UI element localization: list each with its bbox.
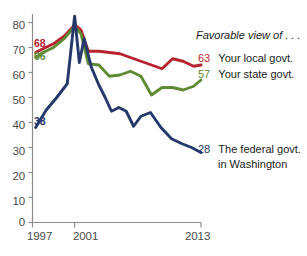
start-label-federal-govt: 38 xyxy=(34,115,46,127)
legend-value-state-govt: 57 xyxy=(198,68,210,80)
legend-entry-state-govt: 57 Your state govt. xyxy=(198,68,294,80)
x-tick-label-1997: 1997 xyxy=(27,230,52,242)
line-chart: 80 70 60 50 40 30 20 10 0 1997 2001 2013… xyxy=(0,0,307,256)
legend-label-federal-govt-line2-wrap: in Washington xyxy=(218,158,287,170)
legend-label-federal-govt-line1: The federal govt. xyxy=(218,143,301,155)
y-tick-label-50: 50 xyxy=(3,94,25,106)
start-label-state-govt: 66 xyxy=(34,50,46,62)
legend-value-local-govt: 63 xyxy=(198,52,210,64)
x-tick-label-2013: 2013 xyxy=(185,230,210,242)
legend-entry-federal-govt: 28 The federal govt. xyxy=(198,143,301,155)
y-tick-label-10: 10 xyxy=(3,195,25,207)
legend-label-federal-govt-line2: in Washington xyxy=(218,158,287,170)
series-line-your-local-govt xyxy=(36,25,201,69)
x-axis-ticks xyxy=(33,223,202,228)
y-tick-label-30: 30 xyxy=(3,145,25,157)
series-lines xyxy=(36,16,201,152)
y-tick-label-80: 80 xyxy=(3,19,25,31)
legend-label-state-govt: Your state govt. xyxy=(218,68,294,80)
y-tick-label-40: 40 xyxy=(3,119,25,131)
x-tick-label-2001: 2001 xyxy=(73,230,98,242)
legend-entry-local-govt: 63 Your local govt. xyxy=(198,52,293,64)
start-label-local-govt: 68 xyxy=(34,37,46,49)
legend-title: Favorable view of . . . xyxy=(196,29,301,41)
series-line-the-federal-govt-in-washington xyxy=(36,16,201,152)
y-tick-label-20: 20 xyxy=(3,170,25,182)
y-tick-label-0: 0 xyxy=(3,216,25,228)
y-tick-label-70: 70 xyxy=(3,44,25,56)
y-tick-label-60: 60 xyxy=(3,69,25,81)
legend-value-federal-govt: 28 xyxy=(198,143,210,155)
legend-label-local-govt: Your local govt. xyxy=(218,52,293,64)
